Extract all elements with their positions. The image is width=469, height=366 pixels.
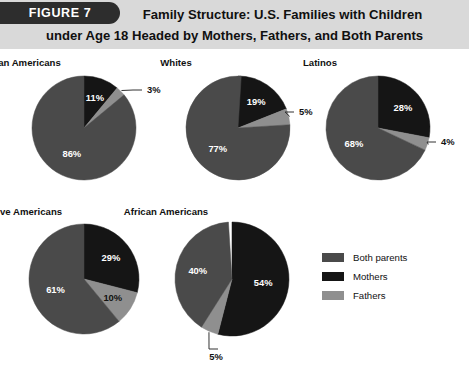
pie-chart-title: Asian Americans bbox=[0, 57, 61, 68]
figure-title: Family Structure: U.S. Families with Chi… bbox=[0, 0, 469, 49]
slice-value-label: 86% bbox=[62, 148, 81, 159]
slice-value-label: 77% bbox=[208, 143, 227, 154]
figure-container: FIGURE 7 Family Structure: U.S. Families… bbox=[0, 0, 469, 366]
legend-swatch-icon bbox=[322, 291, 344, 300]
pie-chart-title: African Americans bbox=[124, 206, 208, 217]
slice-value-label: 5% bbox=[299, 106, 313, 117]
figure-header: FIGURE 7 Family Structure: U.S. Families… bbox=[0, 0, 469, 49]
slice-value-label: 40% bbox=[188, 265, 207, 276]
chart-legend: Both parentsMothersFathers bbox=[322, 252, 407, 309]
slice-leader-line bbox=[209, 332, 218, 349]
pie-chart-title: Whites bbox=[160, 57, 191, 68]
pie-chart-title: Latinos bbox=[303, 57, 337, 68]
slice-value-label: 3% bbox=[147, 84, 161, 95]
slice-value-label: 28% bbox=[393, 102, 412, 113]
figure-title-line-1: Family Structure: U.S. Families with Chi… bbox=[47, 5, 422, 25]
legend-label: Mothers bbox=[353, 271, 388, 282]
pie-graphic: 29%10%61% bbox=[22, 221, 172, 349]
slice-value-label: 54% bbox=[254, 277, 273, 288]
slice-value-label: 68% bbox=[344, 138, 363, 149]
pie-graphic: 28%4%68% bbox=[320, 72, 469, 192]
legend-item: Fathers bbox=[322, 290, 407, 301]
legend-item: Both parents bbox=[322, 252, 407, 263]
slice-value-label: 10% bbox=[103, 292, 122, 303]
slice-value-label: 61% bbox=[46, 284, 65, 295]
slice-value-label: 4% bbox=[441, 136, 455, 147]
charts-area: Asian Americans11%3%86% Whites19%5%77% L… bbox=[0, 49, 469, 366]
figure-title-line-2: under Age 18 Headed by Mothers, Fathers,… bbox=[46, 26, 423, 46]
pie-graphic: 54%5%40% bbox=[166, 221, 326, 361]
legend-swatch-icon bbox=[322, 272, 344, 281]
slice-value-label: 19% bbox=[247, 96, 266, 107]
pie-chart-title: Native Americans bbox=[0, 206, 62, 217]
slice-leader-line bbox=[121, 90, 142, 91]
slice-value-label: 5% bbox=[209, 351, 223, 361]
slice-value-label: 11% bbox=[86, 92, 105, 103]
pie-graphic: 11%3%86% bbox=[22, 72, 172, 192]
legend-label: Both parents bbox=[353, 252, 407, 263]
legend-item: Mothers bbox=[322, 271, 407, 282]
slice-leader-line bbox=[427, 142, 436, 144]
legend-label: Fathers bbox=[353, 290, 386, 301]
legend-swatch-icon bbox=[322, 253, 344, 262]
pie-graphic: 19%5%77% bbox=[176, 72, 326, 192]
slice-value-label: 29% bbox=[102, 252, 121, 263]
